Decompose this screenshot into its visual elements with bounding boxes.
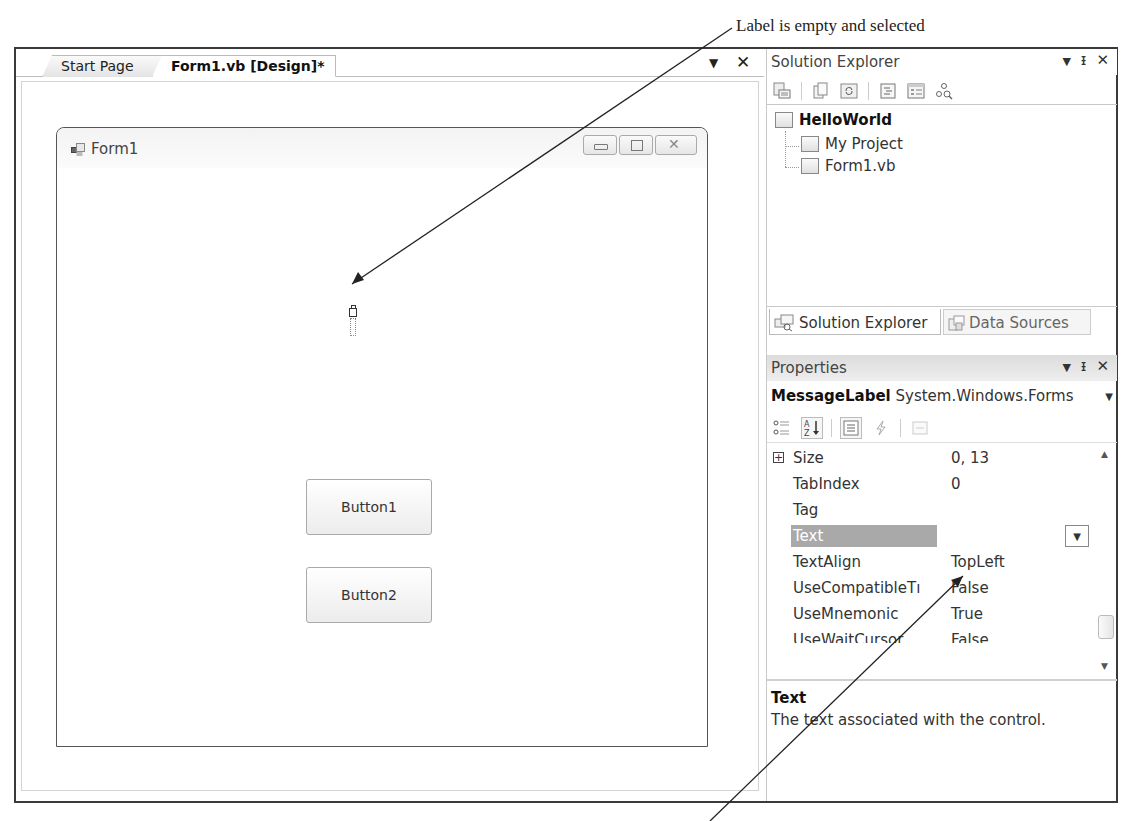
property-name: UseWaitCursor <box>793 631 903 643</box>
properties-toolbar: AZ <box>767 413 1117 443</box>
close-icon[interactable] <box>655 135 697 155</box>
property-value[interactable]: 0 <box>951 475 961 493</box>
properties-icon[interactable] <box>840 417 862 439</box>
tab-data-sources[interactable]: Data Sources <box>943 309 1091 335</box>
property-row-usewaitcursor[interactable]: UseWaitCursor False <box>767 629 1097 643</box>
tree-item-my-project[interactable]: My Project <box>801 133 903 155</box>
property-row-tabindex[interactable]: TabIndex 0 <box>767 473 1097 497</box>
chevron-down-icon[interactable]: ▼ <box>1062 55 1070 69</box>
message-label-selected[interactable] <box>349 308 357 336</box>
tree-connector <box>785 131 786 167</box>
object-selector[interactable]: MessageLabel System.Windows.Forms ▼ <box>771 387 1113 405</box>
svg-text:A: A <box>804 420 810 429</box>
property-row-usecompatibletextrendering[interactable]: UseCompatibleTı False <box>767 577 1097 601</box>
solution-explorer-toolbar <box>767 77 1117 105</box>
tab-solution-explorer[interactable]: Solution Explorer <box>769 309 941 335</box>
button1[interactable]: Button1 <box>306 479 432 535</box>
my-project-icon <box>801 136 819 152</box>
tree-item-form1-vb[interactable]: Form1.vb <box>801 155 896 177</box>
tree-item-helloworld[interactable]: HelloWorld <box>775 109 892 131</box>
design-surface: Form1 Button1 Button2 <box>21 81 759 791</box>
designer-pane: Start Page Form1.vb [Design]* ▼ ✕ Form1 <box>16 49 764 801</box>
object-type: System.Windows.Forms <box>896 387 1074 405</box>
property-value[interactable]: TopLeft <box>951 553 1005 571</box>
property-value[interactable]: 0, 13 <box>951 449 989 467</box>
events-icon[interactable] <box>870 417 892 439</box>
right-dock: Solution Explorer ▼ ᵻ ✕ <box>766 49 1116 801</box>
ide-window: Start Page Form1.vb [Design]* ▼ ✕ Form1 <box>14 47 1118 803</box>
property-row-tag[interactable]: Tag <box>767 499 1097 523</box>
button2[interactable]: Button2 <box>306 567 432 623</box>
view-code-icon[interactable] <box>879 82 897 100</box>
property-row-text[interactable]: Text ▼ <box>767 525 1097 549</box>
properties-icon[interactable] <box>773 82 791 100</box>
solution-explorer-icon <box>774 314 796 332</box>
property-value[interactable]: True <box>951 605 983 623</box>
property-grid-scrollbar[interactable]: ▲ ▼ <box>1097 445 1117 677</box>
chevron-down-icon[interactable]: ▼ <box>709 56 718 70</box>
label-body[interactable] <box>350 318 356 336</box>
tab-start-page[interactable]: Start Page <box>42 55 167 77</box>
property-name: UseMnemonic <box>793 605 898 623</box>
property-name: Text <box>793 527 823 545</box>
tree-item-label: Form1.vb <box>825 157 896 175</box>
toolbar-separator <box>900 419 901 437</box>
data-sources-icon <box>948 314 966 332</box>
close-icon[interactable]: ✕ <box>736 52 750 72</box>
chevron-down-icon[interactable]: ▼ <box>1062 361 1070 375</box>
close-icon[interactable]: ✕ <box>1096 51 1109 69</box>
property-name: UseCompatibleTı <box>793 579 920 597</box>
tree-item-label: HelloWorld <box>799 111 892 129</box>
close-icon[interactable]: ✕ <box>1096 357 1109 375</box>
form-titlebar: Form1 <box>57 128 707 168</box>
properties-title: Properties <box>771 359 847 377</box>
document-tabstrip: Start Page Form1.vb [Design]* ▼ ✕ <box>16 49 764 77</box>
tab-label: Data Sources <box>969 314 1069 332</box>
pin-icon[interactable]: ᵻ <box>1081 51 1087 69</box>
form-client-area: Button1 Button2 <box>63 168 701 742</box>
dock-tabs: Solution Explorer Data Sources <box>767 306 1117 338</box>
chevron-down-icon[interactable]: ▼ <box>1105 391 1113 402</box>
class-diagram-icon[interactable] <box>935 82 953 100</box>
refresh-icon[interactable] <box>840 82 858 100</box>
tree-connector <box>785 146 799 147</box>
property-name: TabIndex <box>793 475 860 493</box>
toolbar-separator <box>801 82 802 100</box>
pin-icon[interactable]: ᵻ <box>1081 357 1087 375</box>
solution-tree: HelloWorld My Project Form1.vb <box>767 107 1117 307</box>
chevron-down-icon[interactable]: ▼ <box>1065 525 1089 547</box>
lock-icon <box>349 308 357 317</box>
property-row-textalign[interactable]: TextAlign TopLeft <box>767 551 1097 575</box>
categorized-icon[interactable] <box>771 417 793 439</box>
property-value[interactable]: False <box>951 579 989 597</box>
maximize-icon[interactable] <box>619 135 653 155</box>
property-row-usemnemonic[interactable]: UseMnemonic True <box>767 603 1097 627</box>
tree-item-label: My Project <box>825 135 903 153</box>
callout-label-empty: Label is empty and selected <box>736 16 925 36</box>
properties-header: Properties ▼ ᵻ ✕ <box>767 355 1117 381</box>
minimize-icon[interactable] <box>583 135 617 155</box>
property-name: TextAlign <box>793 553 861 571</box>
vb-project-icon <box>775 112 793 128</box>
property-name: Tag <box>793 501 818 519</box>
scroll-thumb[interactable] <box>1098 615 1114 639</box>
description-body: The text associated with the control. <box>771 711 1113 729</box>
form-title: Form1 <box>91 140 138 158</box>
solution-explorer-title: Solution Explorer <box>771 53 899 71</box>
expand-icon[interactable]: + <box>773 452 784 463</box>
form1-window[interactable]: Form1 Button1 Button2 <box>56 127 708 747</box>
view-designer-icon[interactable] <box>907 82 925 100</box>
toolbar-separator <box>868 82 869 100</box>
form-file-icon <box>801 158 819 174</box>
tab-form1-design[interactable]: Form1.vb [Design]* <box>152 55 336 77</box>
alphabetical-icon[interactable]: AZ <box>801 417 823 439</box>
tab-label: Solution Explorer <box>799 314 927 332</box>
scroll-down-icon[interactable]: ▼ <box>1101 661 1108 671</box>
scroll-up-icon[interactable]: ▲ <box>1101 449 1108 459</box>
property-pages-icon[interactable] <box>909 417 931 439</box>
tree-connector <box>785 167 799 168</box>
form-icon <box>71 142 85 156</box>
property-row-size[interactable]: + Size 0, 13 <box>767 447 1097 471</box>
property-value[interactable]: False <box>951 631 989 643</box>
show-all-files-icon[interactable] <box>812 82 830 100</box>
